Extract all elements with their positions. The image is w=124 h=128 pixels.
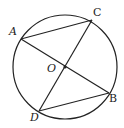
center-point-o xyxy=(63,65,66,68)
label-o: O xyxy=(47,63,56,74)
label-a: A xyxy=(9,26,17,37)
label-b: B xyxy=(109,93,117,104)
segment-ac xyxy=(21,20,92,39)
diagram-canvas xyxy=(0,0,124,128)
segment-db xyxy=(39,93,109,111)
label-d: D xyxy=(30,112,39,123)
circle-diagram: A C B D O xyxy=(0,0,124,128)
label-c: C xyxy=(93,7,101,18)
